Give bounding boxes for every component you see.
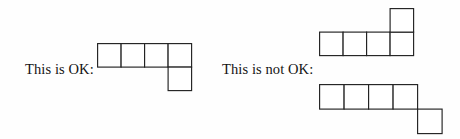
polyomino-cell (168, 67, 192, 91)
polyomino-cell (367, 32, 391, 56)
polyomino-cell (390, 9, 414, 32)
ok-polyomino-svg (97, 43, 217, 103)
polyomino-cell (98, 44, 122, 68)
caption-this-is-not-ok: This is not OK: (222, 62, 313, 77)
polyomino-cell (369, 85, 394, 110)
polyomino-cell (344, 85, 369, 110)
polyomino-cell (145, 44, 169, 68)
caption-this-is-ok: This is OK: (25, 62, 94, 77)
polyomino-cell (168, 44, 192, 68)
not-ok-polyomino-top-figure (319, 8, 439, 68)
not-ok-polyomino-bottom-figure (319, 84, 449, 139)
polyomino-cell (320, 32, 344, 56)
not-ok-polyomino-bottom-svg (319, 84, 449, 139)
polyomino-cell (393, 85, 418, 110)
not-ok-polyomino-top-svg (319, 8, 439, 68)
polyomino-cell (343, 32, 367, 56)
polyomino-cell (121, 44, 145, 68)
polyomino-cell (418, 109, 443, 134)
figure-canvas: This is OK: This is not OK: (0, 0, 460, 139)
polyomino-cell (320, 85, 345, 110)
polyomino-cell (390, 32, 414, 56)
ok-polyomino-figure (97, 43, 217, 103)
